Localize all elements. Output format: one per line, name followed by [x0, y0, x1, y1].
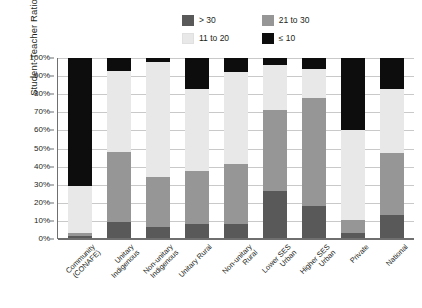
- y-tick-label: 0%: [38, 235, 50, 243]
- bar-segment: [302, 98, 326, 206]
- y-tick-mark: [50, 58, 54, 59]
- y-tick-mark: [50, 184, 54, 185]
- legend-label-lte-10: ≤ 10: [279, 33, 295, 44]
- bar-unitary-indigenous[interactable]: [107, 58, 131, 238]
- bar-segment: [224, 72, 248, 164]
- bar-lower-ses-urban[interactable]: [263, 58, 287, 238]
- bar-segment: [107, 71, 131, 152]
- bar-non-unitary-rural[interactable]: [224, 58, 248, 238]
- y-tick-mark: [50, 94, 54, 95]
- y-tick-label: 10%: [34, 217, 50, 225]
- y-axis-ticks: 0%10%20%30%40%50%60%70%80%90%100%: [0, 52, 54, 245]
- bar-segment: [68, 186, 92, 233]
- y-tick-mark: [50, 148, 54, 149]
- bar-segment: [185, 224, 209, 238]
- plot-area: [57, 58, 414, 239]
- legend-label-21-to-30: 21 to 30: [279, 15, 310, 26]
- legend-label-gt-30: > 30: [199, 15, 216, 26]
- bar-private[interactable]: [341, 58, 365, 238]
- bar-segment: [185, 171, 209, 223]
- x-axis-labels: Community(CONAFE)UnitaryIndigenousNon-un…: [57, 239, 414, 308]
- legend-item-gt-30: > 30: [182, 15, 252, 26]
- bar-segment: [341, 58, 365, 130]
- y-tick-label: 90%: [34, 72, 50, 80]
- bar-group: [58, 58, 414, 238]
- bar-segment: [68, 58, 92, 186]
- bar-segment: [341, 220, 365, 233]
- bar-national[interactable]: [380, 58, 404, 238]
- bar-segment: [380, 215, 404, 238]
- y-tick-mark: [50, 130, 54, 131]
- bar-segment: [263, 58, 287, 65]
- bar-segment: [224, 164, 248, 223]
- bar-segment: [68, 236, 92, 238]
- y-tick-mark: [50, 239, 54, 240]
- bar-higher-ses-urban[interactable]: [302, 58, 326, 238]
- bar-segment: [185, 89, 209, 172]
- legend-swatch-21-to-30: [262, 15, 274, 26]
- bar-segment: [107, 222, 131, 238]
- legend-item-11-to-20: 11 to 20: [182, 33, 252, 44]
- bar-segment: [302, 206, 326, 238]
- bar-segment: [302, 69, 326, 98]
- bar-segment: [302, 58, 326, 69]
- bar-segment: [107, 152, 131, 222]
- y-tick-mark: [50, 112, 54, 113]
- bar-segment: [263, 65, 287, 110]
- bar-segment: [146, 62, 170, 177]
- bar-segment: [146, 227, 170, 238]
- y-tick-label: 80%: [34, 90, 50, 98]
- y-tick-mark: [50, 166, 54, 167]
- bar-non-unitary-indigenous[interactable]: [146, 58, 170, 238]
- bar-segment: [224, 58, 248, 72]
- y-tick-label: 100%: [30, 54, 50, 62]
- bar-segment: [380, 58, 404, 89]
- y-tick-label: 70%: [34, 108, 50, 116]
- bar-segment: [224, 224, 248, 238]
- y-tick-label: 60%: [34, 126, 50, 134]
- y-tick-label: 40%: [34, 163, 50, 171]
- y-tick-mark: [50, 202, 54, 203]
- legend-swatch-lte-10: [262, 33, 274, 44]
- legend-item-lte-10: ≤ 10: [262, 33, 332, 44]
- x-axis-label: National: [341, 243, 411, 308]
- legend-label-11-to-20: 11 to 20: [199, 33, 229, 44]
- legend-swatch-gt-30: [182, 15, 194, 26]
- bar-segment: [341, 233, 365, 238]
- chart-legend: > 30 21 to 30 11 to 20 ≤ 10: [182, 12, 332, 46]
- legend-item-21-to-30: 21 to 30: [262, 15, 332, 26]
- bar-segment: [107, 58, 131, 71]
- bar-segment: [380, 153, 404, 214]
- y-tick-label: 20%: [34, 199, 50, 207]
- bar-segment: [341, 130, 365, 220]
- y-tick-label: 30%: [34, 181, 50, 189]
- y-tick-label: 50%: [34, 145, 50, 153]
- y-tick-mark: [50, 220, 54, 221]
- bar-segment: [263, 191, 287, 238]
- bar-community-conafe[interactable]: [68, 58, 92, 238]
- y-tick-mark: [50, 76, 54, 77]
- bar-segment: [380, 89, 404, 154]
- bar-unitary-rural[interactable]: [185, 58, 209, 238]
- bar-segment: [146, 177, 170, 227]
- legend-swatch-11-to-20: [182, 33, 194, 44]
- bar-segment: [185, 58, 209, 89]
- stacked-bar-chart: > 30 21 to 30 11 to 20 ≤ 10 Student-Teac…: [0, 0, 422, 308]
- bar-segment: [263, 110, 287, 191]
